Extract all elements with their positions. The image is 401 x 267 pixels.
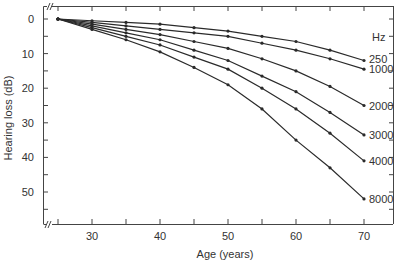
data-point <box>192 31 195 34</box>
y-tick-label: 40 <box>22 151 34 163</box>
series-line-8000hz <box>58 19 364 199</box>
y-tick-label: 0 <box>28 13 34 25</box>
data-point <box>260 107 263 110</box>
data-point <box>294 139 297 142</box>
series-label-8000hz: 8000 <box>369 193 393 205</box>
data-point <box>56 17 59 20</box>
data-point <box>260 42 263 45</box>
data-point <box>192 26 195 29</box>
data-point <box>362 68 365 71</box>
data-point <box>362 133 365 136</box>
data-point <box>124 24 127 27</box>
data-point <box>192 49 195 52</box>
legend-title: Hz <box>372 31 385 43</box>
y-tick-label: 50 <box>22 186 34 198</box>
data-point <box>226 35 229 38</box>
axis-ticks <box>44 7 394 225</box>
series-line-2000hz <box>58 19 364 106</box>
data-point <box>226 68 229 71</box>
series-label-4000hz: 4000 <box>369 155 393 167</box>
data-point <box>362 104 365 107</box>
x-axis-label: Age (years) <box>197 248 254 260</box>
data-point <box>124 35 127 38</box>
x-tick-label: 50 <box>222 230 234 242</box>
data-point <box>294 49 297 52</box>
hearing-loss-chart: 304050607001020304050 250100020003000400… <box>0 0 401 267</box>
data-point <box>226 59 229 62</box>
data-point <box>158 38 161 41</box>
series-labels: 25010002000300040008000 <box>369 53 393 205</box>
series-line-250hz <box>58 19 364 61</box>
data-point <box>124 31 127 34</box>
data-point <box>260 74 263 77</box>
data-point <box>328 111 331 114</box>
x-tick-label: 70 <box>358 230 370 242</box>
data-point <box>192 66 195 69</box>
data-point <box>362 159 365 162</box>
series-label-2000hz: 2000 <box>369 100 393 112</box>
data-point <box>226 30 229 33</box>
y-tick-label: 30 <box>22 117 34 129</box>
data-point <box>260 87 263 90</box>
series-line-4000hz <box>58 19 364 161</box>
data-point <box>362 59 365 62</box>
plot-frame <box>44 6 394 225</box>
data-point <box>294 90 297 93</box>
y-axis-label: Hearing loss (dB) <box>2 76 14 161</box>
data-point <box>192 40 195 43</box>
data-point <box>158 43 161 46</box>
data-point <box>158 23 161 26</box>
data-point <box>294 40 297 43</box>
data-point <box>192 55 195 58</box>
data-point <box>294 107 297 110</box>
x-tick-label: 60 <box>290 230 302 242</box>
data-point <box>328 57 331 60</box>
data-point <box>158 33 161 36</box>
series-lines <box>56 17 365 200</box>
data-point <box>294 69 297 72</box>
data-point <box>328 85 331 88</box>
series-label-3000hz: 3000 <box>369 129 393 141</box>
data-point <box>328 132 331 135</box>
data-point <box>124 28 127 31</box>
data-point <box>328 49 331 52</box>
data-point <box>226 47 229 50</box>
data-point <box>124 38 127 41</box>
y-tick-label: 10 <box>22 48 34 60</box>
data-point <box>90 28 93 31</box>
data-point <box>362 197 365 200</box>
y-tick-label: 20 <box>22 82 34 94</box>
data-point <box>158 50 161 53</box>
series-line-3000hz <box>58 19 364 135</box>
data-point <box>260 57 263 60</box>
data-point <box>328 166 331 169</box>
axis-break-top-left <box>44 7 48 11</box>
x-tick-label: 40 <box>154 230 166 242</box>
series-label-1000hz: 1000 <box>369 63 393 75</box>
data-point <box>124 21 127 24</box>
data-point <box>158 28 161 31</box>
data-point <box>260 35 263 38</box>
x-tick-label: 30 <box>86 230 98 242</box>
data-point <box>226 83 229 86</box>
